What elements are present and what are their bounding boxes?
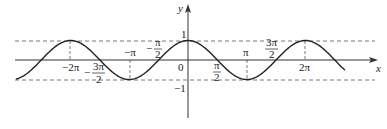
y-tick-1: 1 bbox=[181, 28, 187, 40]
y-tick-neg1: −1 bbox=[174, 82, 186, 94]
x-tick-neg-3pi-2-num: 3π bbox=[93, 60, 105, 72]
x-tick-2pi: 2π bbox=[299, 61, 311, 73]
x-axis-label: x bbox=[375, 62, 381, 74]
x-tick-pi-2-num: π bbox=[214, 59, 220, 71]
x-tick-3pi-2-den: 2 bbox=[269, 48, 275, 60]
x-tick-pi: π bbox=[243, 46, 249, 58]
x-tick-neg-3pi-2-den: 2 bbox=[96, 73, 102, 85]
x-tick-neg-3pi-2-sign: − bbox=[84, 66, 90, 78]
x-tick-neg-pi-2-num: π bbox=[155, 36, 161, 48]
cosine-graph: y x 1 0 −1 −2π − 3π 2 −π − π 2 π 2 π 3π … bbox=[0, 0, 387, 129]
y-axis-label: y bbox=[177, 2, 183, 14]
x-tick-neg-pi: −π bbox=[124, 46, 136, 58]
origin-label: 0 bbox=[178, 61, 184, 73]
x-tick-pi-2-den: 2 bbox=[214, 71, 220, 83]
x-tick-3pi-2-num: 3π bbox=[266, 36, 278, 48]
x-tick-neg-pi-2-den: 2 bbox=[155, 48, 161, 60]
x-tick-neg-2pi: −2π bbox=[62, 61, 80, 73]
x-tick-neg-pi-2-sign: − bbox=[146, 42, 152, 54]
